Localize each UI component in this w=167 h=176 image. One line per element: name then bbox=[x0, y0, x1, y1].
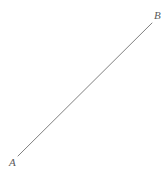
segment-ab-line bbox=[18, 23, 152, 156]
point-label-a: A bbox=[9, 157, 16, 168]
segment-canvas bbox=[0, 0, 167, 176]
point-label-b: B bbox=[154, 10, 161, 21]
line-segment-figure: A B bbox=[0, 0, 167, 176]
